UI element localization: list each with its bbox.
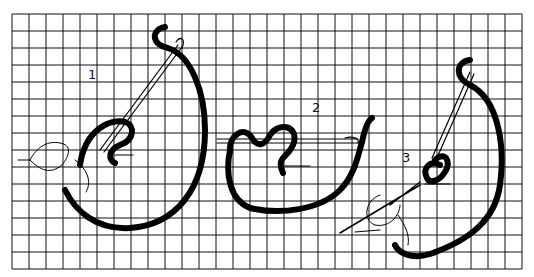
step-2-illustration (217, 118, 372, 211)
step-3-illustration (340, 60, 502, 256)
step-label-1: 1 (88, 67, 96, 82)
step-label-3: 3 (402, 150, 410, 165)
step-label-2: 2 (312, 100, 320, 115)
stitch-diagram: 123 (0, 0, 534, 277)
